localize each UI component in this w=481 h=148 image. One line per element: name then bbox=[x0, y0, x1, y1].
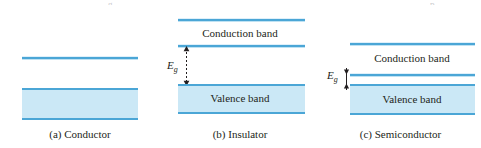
band-gap-symbol: E bbox=[167, 59, 174, 71]
panel-semiconductor: Conduction band Eg Valence band (c) Semi… bbox=[320, 0, 481, 148]
band-gap-label: Eg bbox=[327, 70, 338, 85]
band-gap-symbol: E bbox=[327, 69, 334, 81]
band-gap-arrow bbox=[182, 46, 191, 86]
band-gap-subscript: g bbox=[334, 75, 338, 84]
panel-caption: (a) Conductor bbox=[0, 128, 160, 141]
energy-band-diagram-figure: g p (a) Conductor Conduction band Eg Val… bbox=[0, 0, 481, 148]
conduction-band-top-line bbox=[350, 43, 475, 45]
valence-band-label: Valence band bbox=[342, 93, 481, 105]
valence-band-label: Valence band bbox=[160, 92, 320, 104]
panel-caption: (b) Insulator bbox=[160, 128, 320, 141]
band-gap-label: Eg bbox=[167, 60, 178, 75]
panel-conductor: (a) Conductor bbox=[0, 0, 160, 148]
panel-caption: (c) Semiconductor bbox=[320, 128, 481, 141]
panel-insulator: Conduction band Eg Valence band (b) Insu… bbox=[160, 0, 320, 148]
band-gap-subscript: g bbox=[174, 65, 178, 74]
conduction-band-bottom-line bbox=[178, 45, 305, 47]
conduction-band-label: Conduction band bbox=[160, 27, 320, 39]
conduction-band-bottom-line bbox=[350, 74, 475, 76]
conduction-band-label: Conduction band bbox=[342, 52, 481, 64]
valence-band-fill bbox=[22, 88, 138, 120]
conduction-band-line bbox=[22, 57, 138, 59]
conduction-band-top-line bbox=[178, 19, 305, 21]
